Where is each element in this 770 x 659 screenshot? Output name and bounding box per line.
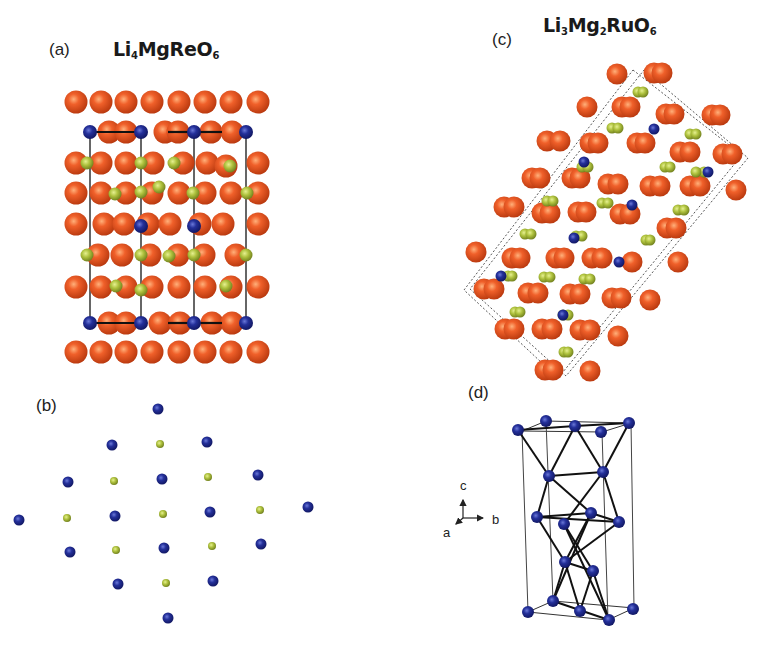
metal-atom bbox=[569, 420, 581, 432]
lithium-atom bbox=[168, 157, 181, 170]
oxygen-atom bbox=[650, 176, 671, 197]
metal-atom bbox=[574, 605, 586, 617]
oxygen-atom bbox=[65, 213, 88, 236]
lithium-atom bbox=[220, 280, 233, 293]
oxygen-atom bbox=[194, 276, 217, 299]
oxygen-atom bbox=[543, 360, 564, 381]
metal-atom bbox=[543, 470, 555, 482]
lithium-atom bbox=[110, 280, 123, 293]
panel-a-structure bbox=[65, 91, 270, 364]
metal-atom bbox=[613, 516, 625, 528]
oxygen-atom bbox=[65, 182, 88, 205]
panel-b-projection bbox=[14, 404, 314, 624]
metal-site bbox=[153, 404, 164, 415]
crystal-structure-figure bbox=[0, 0, 770, 659]
oxygen-atom bbox=[622, 252, 643, 273]
metal-atom bbox=[585, 507, 597, 519]
oxygen-atom bbox=[168, 341, 191, 364]
metal-atom bbox=[649, 124, 660, 135]
metal-atom bbox=[187, 219, 201, 233]
oxygen-atom bbox=[504, 197, 525, 218]
oxygen-atom bbox=[540, 203, 561, 224]
metal-atom bbox=[587, 565, 599, 577]
oxygen-atom bbox=[141, 91, 164, 114]
metal-atom bbox=[558, 310, 569, 321]
lithium-atom bbox=[691, 167, 702, 178]
metal-site bbox=[205, 507, 216, 518]
oxygen-atom bbox=[65, 276, 88, 299]
lithium-atom bbox=[613, 123, 624, 134]
lithium-atom bbox=[135, 284, 148, 297]
metal-atom bbox=[540, 415, 552, 427]
metal-site bbox=[110, 511, 121, 522]
lithium-atom bbox=[585, 274, 596, 285]
metal-atom bbox=[623, 417, 635, 429]
oxygen-atom bbox=[580, 320, 601, 341]
lithium-atom bbox=[691, 129, 702, 140]
cell-vertical-edge bbox=[522, 431, 528, 612]
bond-line bbox=[575, 423, 629, 426]
lithium-atom bbox=[153, 181, 166, 194]
oxygen-atom bbox=[550, 131, 571, 152]
cell-vertical-edge bbox=[546, 421, 553, 601]
oxygen-atom bbox=[115, 341, 138, 364]
metal-site bbox=[256, 539, 267, 550]
oxygen-atom bbox=[690, 176, 711, 197]
lithium-atom bbox=[187, 187, 200, 200]
lithium-atom bbox=[109, 188, 122, 201]
oxygen-atom bbox=[93, 213, 116, 236]
metal-site bbox=[303, 502, 314, 513]
oxygen-atom bbox=[726, 180, 747, 201]
oxygen-atom bbox=[588, 133, 609, 154]
oxygen-atom bbox=[247, 152, 270, 175]
oxygen-atom bbox=[247, 276, 270, 299]
metal-atom bbox=[614, 257, 625, 268]
cell-vertical-edge bbox=[631, 423, 634, 608]
oxygen-atom bbox=[666, 218, 687, 239]
oxygen-atom bbox=[611, 288, 632, 309]
lithium-site bbox=[110, 477, 118, 485]
metal-site bbox=[113, 579, 124, 590]
lithium-atom bbox=[679, 205, 690, 216]
metal-atom bbox=[134, 125, 148, 139]
lithium-atom bbox=[507, 271, 518, 282]
oxygen-atom bbox=[159, 213, 182, 236]
oxygen-atom bbox=[635, 133, 656, 154]
lithium-site bbox=[204, 473, 212, 481]
lithium-atom bbox=[563, 347, 574, 358]
oxygen-atom bbox=[168, 91, 191, 114]
oxygen-atom bbox=[570, 284, 591, 305]
oxygen-atom bbox=[554, 248, 575, 269]
lithium-atom bbox=[81, 157, 94, 170]
oxygen-atom bbox=[592, 248, 613, 269]
oxygen-atom bbox=[220, 341, 243, 364]
oxygen-atom bbox=[510, 248, 531, 269]
oxygen-atom bbox=[607, 64, 628, 85]
bond-line bbox=[564, 472, 603, 524]
lithium-site bbox=[63, 514, 71, 522]
lithium-atom bbox=[545, 272, 556, 283]
metal-atom bbox=[558, 518, 570, 530]
lithium-atom bbox=[645, 235, 656, 246]
oxygen-atom bbox=[115, 91, 138, 114]
metal-atom bbox=[187, 125, 201, 139]
metal-atom bbox=[559, 556, 571, 568]
lithium-atom bbox=[188, 249, 201, 262]
lithium-site bbox=[156, 440, 164, 448]
metal-atom bbox=[597, 466, 609, 478]
oxygen-atom bbox=[115, 152, 138, 175]
lithium-atom bbox=[135, 157, 148, 170]
oxygen-atom bbox=[542, 319, 563, 340]
metal-site bbox=[163, 613, 174, 624]
oxygen-atom bbox=[90, 276, 113, 299]
oxygen-atom bbox=[90, 341, 113, 364]
metal-site bbox=[107, 440, 118, 451]
oxygen-atom bbox=[484, 279, 505, 300]
metal-site bbox=[157, 474, 168, 485]
oxygen-atom bbox=[608, 326, 629, 347]
oxygen-atom bbox=[247, 341, 270, 364]
lithium-atom bbox=[224, 160, 237, 173]
metal-atom bbox=[187, 316, 201, 330]
oxygen-atom bbox=[580, 361, 601, 382]
metal-atom bbox=[512, 424, 524, 436]
